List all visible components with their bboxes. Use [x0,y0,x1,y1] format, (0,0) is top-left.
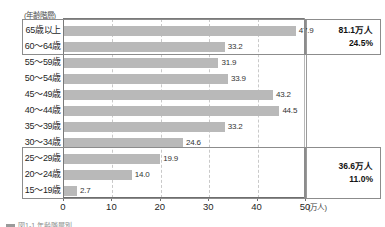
category-label: 15～19歳 [25,182,61,198]
bar-value-label: 33.2 [228,121,243,133]
bar-value-label: 2.7 [80,185,91,197]
bar-row: 33.9 [64,71,306,87]
bar [64,26,296,36]
x-tick-label: 0 [60,201,65,213]
category-label: 20～24歳 [25,166,61,182]
figure-caption: 図1-1 年齢階層別 [6,221,216,227]
bar-value-label: 44.5 [282,105,297,117]
age-bracket-bar-chart: (年齢階層) 65歳以上60～64歳55～59歳50～54歳45～49歳40～4… [0,0,385,227]
x-axis-unit-label: (万人) [308,203,327,213]
category-label: 50～54歳 [25,70,61,86]
x-axis-line [63,197,305,198]
bar [64,58,218,68]
category-label: 60～64歳 [25,38,61,54]
bar [64,186,77,196]
bar-value-label: 24.6 [186,137,201,149]
bar-row: 33.2 [64,39,306,55]
bar-value-label: 43.2 [276,89,291,101]
bar-value-label: 31.9 [221,57,236,69]
bar-row: 43.2 [64,87,306,103]
bar-value-label: 14.0 [135,169,150,181]
bar [64,74,228,84]
bar [64,154,160,164]
bar-value-label: 33.9 [231,73,246,85]
bar [64,42,225,52]
group-total-label: 36.6万人 [305,160,373,173]
category-label-column: 65歳以上60～64歳55～59歳50～54歳45～49歳40～44歳35～39… [0,22,63,198]
bar [64,106,279,116]
x-tick-label: 10 [106,201,117,213]
plot-area: 47.933.231.933.943.244.533.224.619.914.0… [63,18,305,198]
category-label: 35～39歳 [25,118,61,134]
bar [64,122,225,132]
group-total-label: 81.1万人 [305,24,373,37]
category-label: 65歳以上 [25,22,61,38]
bar-value-label: 33.2 [228,41,243,53]
x-tick-label: 20 [155,201,166,213]
bar-row: 47.9 [64,23,306,39]
category-label: 30～34歳 [25,134,61,150]
bar-row: 14.0 [64,167,306,183]
caption-text: 図1-1 年齢階層別 [18,222,72,227]
bar [64,138,183,148]
caption-marker-icon [6,224,15,227]
category-label: 40～44歳 [25,102,61,118]
bar [64,170,132,180]
group-share-label: 24.5% [305,37,373,50]
category-label: 25～29歳 [25,150,61,166]
group-stats: 81.1万人24.5% [305,24,373,50]
bar [64,90,273,100]
group-share-label: 11.0% [305,173,373,186]
bar-value-label: 19.9 [163,153,178,165]
category-label: 55～59歳 [25,54,61,70]
x-tick-label: 30 [203,201,214,213]
x-tick-label: 40 [251,201,262,213]
bar-row: 19.9 [64,151,306,167]
bar-row: 33.2 [64,119,306,135]
category-label: 45～49歳 [25,86,61,102]
axis-header-label: (年齢階層) [24,9,56,20]
bar-row: 31.9 [64,55,306,71]
bar-row: 24.6 [64,135,306,151]
bar-row: 44.5 [64,103,306,119]
group-stats: 36.6万人11.0% [305,160,373,186]
